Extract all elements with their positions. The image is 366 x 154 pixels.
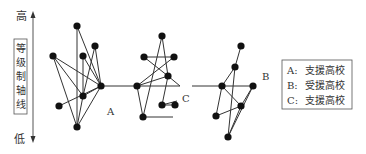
node-b4: [249, 82, 256, 89]
node-c7: [171, 101, 178, 108]
axis-high-label: 高: [16, 9, 27, 23]
node-c5: [133, 82, 140, 89]
edge-c5-c8: [137, 86, 143, 117]
edge-a3-a8: [53, 56, 77, 127]
axis-title: 等 级 制 轴 线: [16, 42, 26, 110]
hierarchy-axis: 高 低 等 级 制 轴 线: [14, 9, 36, 146]
edge-b4-b7: [228, 86, 253, 137]
edge-c3-c5: [137, 57, 174, 86]
legend-key-c: C:: [287, 95, 298, 106]
node-a8: [73, 123, 80, 130]
network-edges: [53, 26, 253, 137]
node-b2: [231, 63, 238, 70]
node-b1: [237, 42, 244, 49]
node-a1: [73, 22, 80, 29]
node-b6: [212, 112, 219, 119]
cluster-label-c: C: [182, 93, 190, 104]
axis-title-char: 轴: [16, 84, 26, 96]
node-a2: [91, 42, 98, 49]
legend: A: 支援高校 B: 受援高校 C: 支援高校: [282, 60, 352, 109]
node-c4: [164, 72, 171, 79]
edge-c4-c6: [162, 76, 168, 105]
axis-arrow-up-icon: [31, 11, 36, 18]
edge-b2-b7: [228, 67, 235, 137]
node-c8: [139, 113, 146, 120]
legend-text-a: 支援高校: [305, 64, 345, 76]
node-a4: [79, 52, 86, 59]
edge-a3-a6: [53, 56, 83, 96]
cluster-label-a: A: [106, 106, 115, 117]
edge-a2-a5: [95, 46, 101, 86]
node-c3: [170, 53, 177, 60]
node-a3: [49, 52, 56, 59]
legend-key-a: A:: [286, 65, 298, 76]
node-b7: [224, 133, 231, 140]
node-c1: [158, 32, 165, 39]
axis-title-char: 线: [16, 98, 26, 110]
legend-key-b: B:: [287, 80, 298, 91]
node-a6: [79, 92, 86, 99]
node-a5: [97, 82, 104, 89]
node-b3: [218, 82, 225, 89]
cluster-label-b: B: [262, 71, 269, 82]
edge-b3-b6: [216, 86, 222, 116]
node-b5: [237, 102, 244, 109]
axis-arrow-down-icon: [31, 136, 36, 143]
axis-title-char: 级: [16, 57, 26, 68]
legend-text-b: 受援高校: [305, 79, 345, 91]
network-diagram: 高 低 等 级 制 轴 线 A C B A: 支援高校 B: 受援高校 C: 支…: [0, 0, 366, 154]
node-c2: [140, 53, 147, 60]
axis-low-label: 低: [14, 133, 25, 146]
edge-c1-c4: [162, 36, 168, 76]
legend-text-c: 支援高校: [305, 94, 345, 106]
axis-title-char: 制: [16, 70, 26, 82]
node-a7: [55, 102, 62, 109]
axis-title-char: 等: [16, 42, 26, 54]
node-c6: [158, 101, 165, 108]
